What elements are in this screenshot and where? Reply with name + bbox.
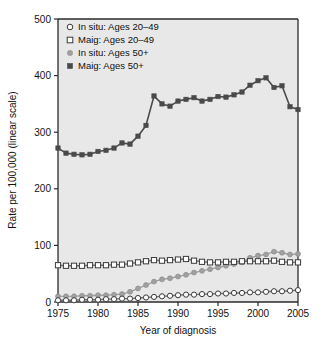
series-marker bbox=[287, 260, 292, 265]
series-marker bbox=[79, 263, 84, 268]
series-marker bbox=[111, 297, 116, 302]
series-marker bbox=[167, 293, 172, 298]
legend-marker-open-circle bbox=[67, 24, 73, 30]
series-marker bbox=[280, 84, 284, 88]
x-tick-label: 2000 bbox=[247, 308, 270, 319]
series-marker bbox=[256, 253, 261, 258]
y-tick-label: 100 bbox=[34, 240, 51, 251]
series-marker bbox=[224, 95, 228, 99]
chart-figure: 0100200300400500 19751980198519901995200… bbox=[0, 0, 322, 347]
series-marker bbox=[184, 272, 189, 277]
series-marker bbox=[295, 260, 300, 265]
legend-marker-open-square bbox=[67, 37, 73, 43]
series-marker bbox=[231, 290, 236, 295]
series-marker bbox=[239, 290, 244, 295]
legend-label: In situ: Ages 50+ bbox=[78, 47, 149, 58]
series-marker bbox=[127, 296, 132, 301]
series-marker bbox=[240, 90, 244, 94]
chart-canvas: 0100200300400500 19751980198519901995200… bbox=[0, 0, 322, 347]
series-marker bbox=[95, 297, 100, 302]
series-marker bbox=[287, 288, 292, 293]
series-marker bbox=[120, 141, 124, 145]
legend-label: Maig: Ages 20–49 bbox=[78, 34, 154, 45]
series-marker bbox=[72, 152, 76, 156]
series-marker bbox=[88, 152, 92, 156]
x-tick-label: 1980 bbox=[87, 308, 110, 319]
x-tick-label: 1990 bbox=[167, 308, 190, 319]
series-marker bbox=[279, 259, 284, 264]
series-marker bbox=[263, 289, 268, 294]
series-marker bbox=[104, 148, 108, 152]
series-marker bbox=[144, 283, 149, 288]
series-marker bbox=[167, 258, 172, 263]
y-tick-label: 0 bbox=[45, 297, 51, 308]
series-marker bbox=[272, 249, 277, 254]
series-marker bbox=[183, 292, 188, 297]
series-marker bbox=[160, 277, 165, 282]
series-marker bbox=[256, 78, 260, 82]
series-marker bbox=[192, 270, 197, 275]
series-marker bbox=[136, 134, 140, 138]
series-marker bbox=[103, 297, 108, 302]
series-marker bbox=[216, 94, 220, 98]
series-marker bbox=[208, 267, 213, 272]
y-tick-label: 300 bbox=[34, 127, 51, 138]
y-tick-label: 400 bbox=[34, 70, 51, 81]
series-marker bbox=[63, 263, 68, 268]
series-marker bbox=[183, 256, 188, 261]
series-marker bbox=[272, 85, 276, 89]
series-marker bbox=[200, 99, 204, 103]
series-marker bbox=[143, 295, 148, 300]
series-marker bbox=[215, 260, 220, 265]
series-marker bbox=[55, 263, 60, 268]
series-marker bbox=[152, 279, 157, 284]
series-marker bbox=[152, 94, 156, 98]
series-marker bbox=[191, 258, 196, 263]
x-tick-label: 1995 bbox=[207, 308, 230, 319]
series-marker bbox=[176, 99, 180, 103]
series-marker bbox=[200, 268, 205, 273]
series-marker bbox=[151, 294, 156, 299]
series-marker bbox=[223, 291, 228, 296]
series-marker bbox=[263, 259, 268, 264]
series-marker bbox=[247, 259, 252, 264]
series-marker bbox=[184, 97, 188, 101]
series-marker bbox=[191, 292, 196, 297]
series-marker bbox=[71, 298, 76, 303]
series-marker bbox=[80, 153, 84, 157]
series-marker bbox=[143, 259, 148, 264]
series-marker bbox=[151, 258, 156, 263]
series-marker bbox=[239, 259, 244, 264]
series-marker bbox=[271, 258, 276, 263]
y-axis-title: Rate per 100,000 (linear scale) bbox=[7, 91, 18, 228]
series-marker bbox=[144, 123, 148, 127]
series-marker bbox=[207, 291, 212, 296]
y-tick-label: 200 bbox=[34, 183, 51, 194]
series-marker bbox=[216, 265, 221, 270]
series-marker bbox=[232, 93, 236, 97]
series-marker bbox=[175, 293, 180, 298]
series-marker bbox=[264, 76, 268, 80]
series-marker bbox=[71, 263, 76, 268]
series-marker bbox=[128, 289, 133, 294]
series-marker bbox=[96, 149, 100, 153]
series-marker bbox=[95, 263, 100, 268]
legend-label: Maig: Ages 50+ bbox=[78, 60, 144, 71]
series-marker bbox=[87, 297, 92, 302]
series-marker bbox=[199, 259, 204, 264]
series-marker bbox=[231, 259, 236, 264]
series-marker bbox=[159, 294, 164, 299]
series-marker bbox=[136, 286, 141, 291]
series-marker bbox=[271, 289, 276, 294]
series-marker bbox=[215, 291, 220, 296]
series-marker bbox=[55, 298, 60, 303]
legend-marker-filled-square bbox=[68, 64, 73, 69]
series-marker bbox=[119, 262, 124, 267]
x-tick-label: 1985 bbox=[127, 308, 150, 319]
series-marker bbox=[208, 97, 212, 101]
series-marker bbox=[160, 102, 164, 106]
series-marker bbox=[127, 261, 132, 266]
series-marker bbox=[223, 259, 228, 264]
series-marker bbox=[103, 263, 108, 268]
series-marker bbox=[255, 259, 260, 264]
